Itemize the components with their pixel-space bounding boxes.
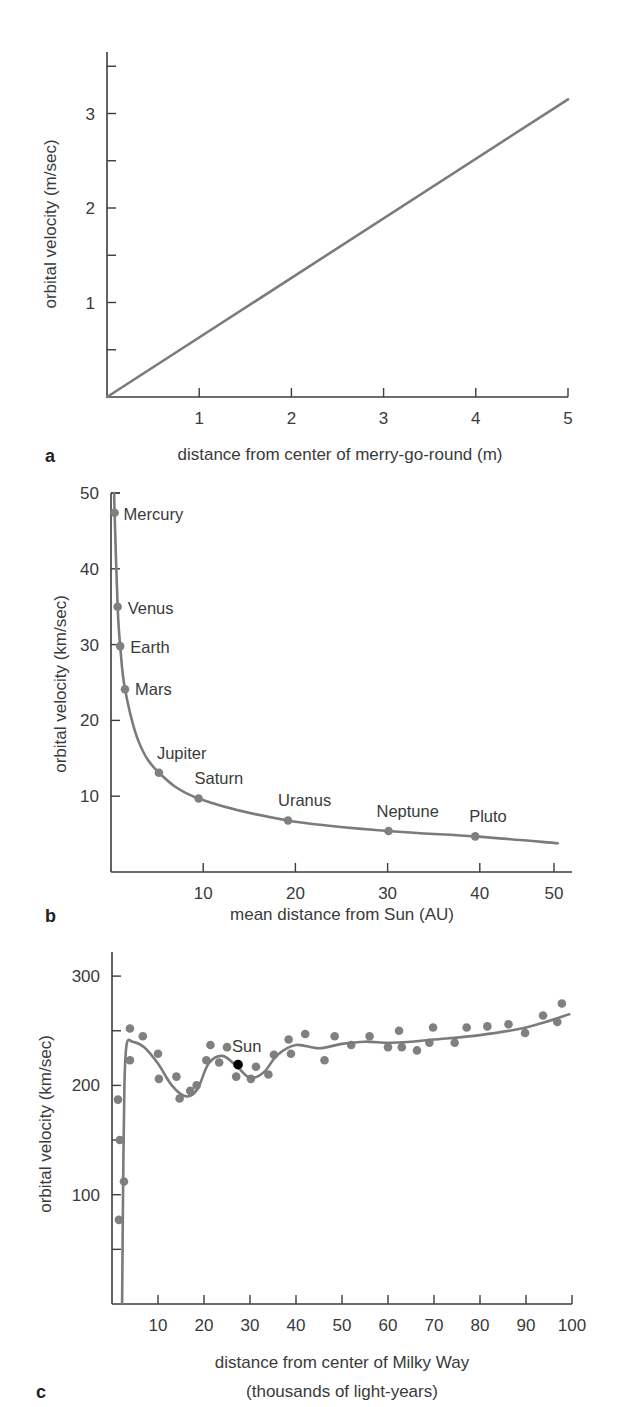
data-point — [223, 1043, 232, 1052]
chart-c-ylabel: orbital velocity (km/sec) — [36, 1035, 55, 1213]
y-tick-label: 30 — [80, 636, 99, 655]
data-point — [252, 1063, 261, 1072]
chart-c-panel-label: c — [36, 1382, 46, 1402]
data-point — [365, 1032, 374, 1041]
data-point — [287, 1049, 296, 1058]
chart-c-axes: 102030405060708090100100200300 — [72, 952, 587, 1335]
planet-label: Saturn — [195, 769, 244, 787]
data-point — [139, 1032, 148, 1041]
data-point — [206, 1041, 215, 1050]
data-point — [172, 1072, 181, 1081]
y-tick-label: 1 — [86, 294, 95, 313]
x-tick-label: 70 — [425, 1316, 444, 1335]
sun-point — [233, 1060, 243, 1070]
data-point — [320, 1056, 329, 1065]
planet-point — [284, 816, 293, 825]
data-point — [413, 1046, 422, 1055]
planet-point — [155, 768, 164, 777]
data-point — [154, 1049, 163, 1058]
y-tick-label: 300 — [72, 967, 100, 986]
data-point — [330, 1032, 339, 1041]
planet-label: Mercury — [124, 505, 184, 523]
chart-a-axes: 12345123 — [86, 52, 573, 428]
planet-label: Venus — [128, 599, 174, 617]
chart-b-solar-system: 10203040501020304050 MercuryVenusEarthMa… — [45, 484, 572, 926]
planet-point — [116, 642, 125, 651]
planet-label: Jupiter — [157, 744, 207, 762]
x-tick-label: 80 — [471, 1316, 490, 1335]
chart-c-xlabel-line2: (thousands of light-years) — [246, 1382, 438, 1401]
x-tick-label: 3 — [379, 409, 388, 428]
x-tick-label: 30 — [241, 1316, 260, 1335]
y-tick-label: 50 — [80, 484, 99, 503]
x-tick-label: 20 — [286, 884, 305, 903]
chart-a-merry-go-round: 12345123 distance from center of merry-g… — [41, 52, 573, 466]
x-tick-label: 50 — [333, 1316, 352, 1335]
y-tick-label: 3 — [86, 105, 95, 124]
y-tick-label: 40 — [80, 560, 99, 579]
sun-label: Sun — [232, 1037, 261, 1055]
data-point — [284, 1035, 293, 1044]
x-tick-label: 50 — [545, 884, 564, 903]
data-point — [301, 1030, 310, 1039]
data-point — [398, 1043, 407, 1052]
data-point — [114, 1095, 123, 1104]
chart-a-plot — [107, 99, 568, 397]
x-tick-label: 10 — [149, 1316, 168, 1335]
x-tick-label: 30 — [378, 884, 397, 903]
chart-a-xlabel: distance from center of merry-go-round (… — [178, 445, 503, 464]
planet-label: Mars — [135, 680, 172, 698]
data-point — [521, 1029, 530, 1038]
x-tick-label: 2 — [287, 409, 296, 428]
data-point — [126, 1024, 135, 1033]
chart-b-xlabel: mean distance from Sun (AU) — [230, 905, 454, 924]
chart-b-ylabel: orbital velocity (km/sec) — [51, 595, 70, 773]
data-point — [450, 1038, 459, 1047]
planet-point — [471, 832, 480, 841]
x-tick-label: 100 — [558, 1316, 586, 1335]
planet-label: Neptune — [377, 802, 439, 820]
y-tick-label: 20 — [80, 711, 99, 730]
x-tick-label: 60 — [379, 1316, 398, 1335]
planet-point — [384, 827, 393, 836]
y-tick-label: 10 — [80, 787, 99, 806]
chart-b-plot: MercuryVenusEarthMarsJupiterSaturnUranus… — [110, 493, 557, 843]
chart-c-milky-way: 102030405060708090100100200300 Sun dista… — [36, 952, 586, 1402]
data-point — [155, 1075, 164, 1084]
x-tick-label: 4 — [471, 409, 480, 428]
x-tick-label: 5 — [563, 409, 572, 428]
x-tick-label: 20 — [195, 1316, 214, 1335]
planet-label: Earth — [130, 638, 169, 656]
x-tick-label: 1 — [194, 409, 203, 428]
data-point — [232, 1072, 241, 1081]
y-tick-label: 100 — [72, 1186, 100, 1205]
series-curve — [122, 1014, 569, 1304]
figure-orbital-velocity: 12345123 distance from center of merry-g… — [0, 0, 628, 1407]
x-tick-label: 40 — [470, 884, 489, 903]
chart-b-panel-label: b — [45, 906, 56, 926]
data-point — [539, 1011, 548, 1020]
data-point — [558, 999, 567, 1008]
planet-point — [113, 602, 122, 611]
data-point — [483, 1022, 492, 1031]
planet-point — [110, 508, 119, 517]
data-point — [462, 1023, 471, 1032]
series-curve — [114, 493, 557, 843]
planet-point — [194, 794, 203, 803]
chart-a-panel-label: a — [45, 446, 56, 466]
data-point — [504, 1020, 513, 1029]
y-tick-label: 2 — [86, 199, 95, 218]
data-point — [395, 1026, 404, 1035]
y-tick-label: 200 — [72, 1076, 100, 1095]
data-point — [126, 1056, 135, 1065]
x-tick-label: 40 — [287, 1316, 306, 1335]
series-curve — [107, 99, 568, 397]
planet-label: Uranus — [278, 791, 331, 809]
x-tick-label: 10 — [194, 884, 213, 903]
data-point — [215, 1058, 224, 1067]
data-point — [429, 1023, 438, 1032]
x-tick-label: 90 — [517, 1316, 536, 1335]
chart-c-xlabel: distance from center of Milky Way — [215, 1353, 470, 1372]
data-point — [384, 1043, 393, 1052]
chart-a-ylabel: orbital velocity (m/sec) — [41, 139, 60, 308]
